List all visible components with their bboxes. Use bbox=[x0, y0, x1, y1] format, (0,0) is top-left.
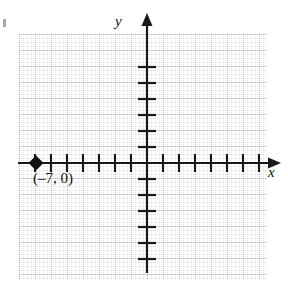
point-coordinate-label: (–7, 0) bbox=[33, 171, 73, 186]
y-axis-label: y bbox=[115, 14, 122, 29]
axes-layer bbox=[0, 0, 288, 281]
x-axis-label: x bbox=[268, 165, 275, 180]
coordinate-plane-figure: y x (–7, 0) bbox=[0, 0, 288, 281]
plotted-point-marker bbox=[29, 156, 44, 171]
y-axis-arrow-icon bbox=[142, 13, 153, 26]
